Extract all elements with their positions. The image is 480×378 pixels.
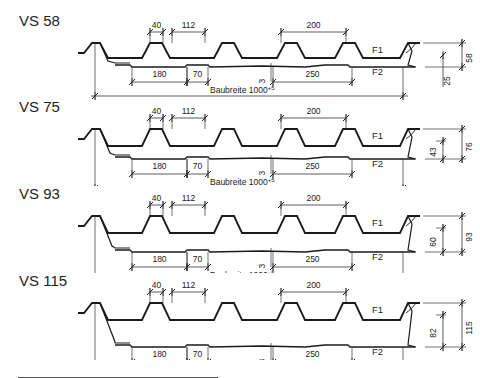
inner-height-label: 43 — [428, 147, 438, 157]
f1-label: F1 — [372, 130, 383, 141]
dimension-label: 40 — [152, 193, 162, 203]
dimension-label: 70 — [193, 69, 203, 79]
dimension-label: 200 — [306, 280, 320, 290]
f2-profile-line — [115, 250, 415, 252]
dimension-label: 250 — [305, 69, 319, 79]
f1-label: F1 — [372, 217, 383, 228]
profile-drawing: 40112200180702503Baubreite 1000+5F1F2764… — [0, 96, 480, 186]
f1-label: F1 — [372, 44, 383, 55]
dimension-label: 112 — [182, 106, 196, 116]
f1-profile-line — [78, 216, 420, 233]
svg-text:3: 3 — [257, 170, 267, 175]
dimension-label: 112 — [182, 193, 196, 203]
f2-profile-line — [115, 345, 415, 347]
dimension-label: 250 — [305, 161, 319, 171]
dimension-label: 200 — [306, 193, 320, 203]
dimension-label: 70 — [193, 161, 203, 171]
profile-drawing: 40112200180702503Baubreite 1000+5F1F2115… — [0, 270, 480, 360]
f2-label: F2 — [372, 66, 383, 77]
dimension-label: 180 — [152, 161, 166, 171]
svg-text:3: 3 — [257, 263, 267, 268]
dimension-label: 200 — [306, 20, 320, 30]
profile-drawing: 40112200180702503Baubreite 1000+5F1F2936… — [0, 183, 480, 273]
dimension-label: 250 — [305, 254, 319, 264]
dimension-label: 112 — [182, 280, 196, 290]
dimension-label: 40 — [152, 20, 162, 30]
f1-profile-line — [78, 43, 420, 58]
dimension-label: 70 — [193, 349, 203, 359]
dimension-label: 200 — [306, 106, 320, 116]
svg-text:3: 3 — [257, 78, 267, 83]
dimension-label: 70 — [193, 254, 203, 264]
inner-height-label: 60 — [428, 237, 438, 247]
f2-profile-line — [115, 65, 415, 67]
f2-label: F2 — [372, 158, 383, 169]
f1-profile-line — [78, 303, 420, 320]
inner-height-label: 25 — [442, 76, 452, 86]
dimension-label: 40 — [152, 106, 162, 116]
profile-height-label: 76 — [464, 142, 474, 152]
dimension-label: 112 — [182, 20, 196, 30]
f2-profile-line — [115, 157, 415, 159]
build-width-label: Baubreite 1000+5 — [210, 85, 275, 95]
profile-height-label: 115 — [464, 321, 474, 335]
profile-height-label: 93 — [464, 232, 474, 242]
inner-height-label: 82 — [428, 328, 438, 338]
f1-profile-line — [78, 129, 420, 146]
dimension-label: 180 — [152, 349, 166, 359]
svg-text:3: 3 — [257, 358, 267, 360]
dimension-label: 250 — [305, 349, 319, 359]
f1-label: F1 — [372, 304, 383, 315]
f2-label: F2 — [372, 346, 383, 357]
profile-drawing: 40112200180702503Baubreite 1000+5F1F2582… — [0, 10, 480, 100]
profile-height-label: 58 — [464, 53, 474, 63]
dimension-label: 180 — [152, 254, 166, 264]
dimension-label: 40 — [152, 280, 162, 290]
f2-label: F2 — [372, 251, 383, 262]
dimension-label: 180 — [152, 69, 166, 79]
